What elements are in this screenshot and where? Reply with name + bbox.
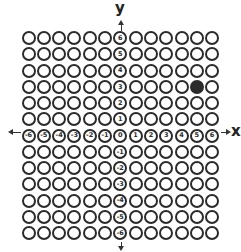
grid-point: 2: [143, 128, 158, 144]
grid-point: [67, 193, 82, 209]
ring-icon: [98, 226, 112, 240]
ring-icon: [83, 194, 97, 208]
grid-point: [174, 144, 189, 160]
grid-point: [174, 30, 189, 46]
grid-point: [98, 193, 113, 209]
grid-point: -3: [113, 176, 128, 192]
ring-icon: [205, 210, 219, 224]
grid-point: -3: [67, 128, 82, 144]
ring-icon: [175, 112, 189, 126]
grid-point: [174, 79, 189, 95]
grid-point: [143, 144, 158, 160]
grid-point: [36, 30, 51, 46]
grid-point: [52, 160, 67, 176]
ring-icon: -3: [67, 129, 81, 143]
grid-point: [21, 144, 36, 160]
grid-point: [189, 63, 204, 79]
grid-point: [21, 209, 36, 225]
ring-icon: [98, 194, 112, 208]
ring-icon: [83, 226, 97, 240]
grid-point: [67, 209, 82, 225]
ring-icon: 1: [129, 129, 143, 143]
grid-point: [52, 176, 67, 192]
x-axis-arrow-right-icon: [226, 129, 231, 135]
grid-point: [159, 176, 174, 192]
ring-icon: [190, 194, 204, 208]
tick-label: 5: [195, 132, 200, 139]
ring-icon: [205, 226, 219, 240]
ring-icon: [22, 96, 36, 110]
grid-point: [189, 30, 204, 46]
grid-point: [36, 144, 51, 160]
ring-icon: [67, 112, 81, 126]
grid-point: [67, 144, 82, 160]
grid-point: -6: [21, 128, 36, 144]
grid-point: [205, 160, 220, 176]
ring-icon: [22, 112, 36, 126]
tick-label: 5: [118, 51, 123, 58]
tick-label: -3: [71, 132, 78, 139]
grid-point: 4: [174, 128, 189, 144]
ring-icon: [83, 210, 97, 224]
grid-point: [52, 95, 67, 111]
circle-grid: 654321-6-5-4-3-2-10123456-1-2-3-4-5-6: [21, 30, 221, 242]
ring-icon: [22, 194, 36, 208]
grid-point: [205, 95, 220, 111]
y-axis-arrow-down-icon: [118, 246, 124, 251]
ring-icon: [175, 210, 189, 224]
ring-icon: [37, 194, 51, 208]
ring-icon: [190, 145, 204, 159]
ring-icon: [22, 210, 36, 224]
ring-icon: [175, 80, 189, 94]
ring-icon: [67, 31, 81, 45]
grid-point: [143, 95, 158, 111]
ring-icon: 6: [205, 129, 219, 143]
ring-icon: [83, 112, 97, 126]
grid-point: [128, 209, 143, 225]
grid-point: [128, 160, 143, 176]
ring-icon: [190, 112, 204, 126]
ring-icon: [205, 145, 219, 159]
ring-icon: 6: [113, 31, 127, 45]
grid-point: [67, 225, 82, 241]
ring-icon: [83, 80, 97, 94]
ring-icon: [159, 210, 173, 224]
grid-point: [36, 95, 51, 111]
ring-icon: [37, 31, 51, 45]
ring-icon: [159, 161, 173, 175]
grid-point: [82, 63, 97, 79]
ring-icon: [144, 112, 158, 126]
grid-point: [82, 160, 97, 176]
grid-point: [143, 193, 158, 209]
ring-icon: [52, 31, 66, 45]
grid-point: [205, 79, 220, 95]
ring-icon: [98, 145, 112, 159]
ring-icon: [52, 177, 66, 191]
grid-point: [82, 193, 97, 209]
grid-point: [52, 193, 67, 209]
ring-icon: 4: [113, 64, 127, 78]
ring-icon: -1: [113, 145, 127, 159]
ring-icon: [159, 96, 173, 110]
ring-icon: [144, 226, 158, 240]
grid-point: [143, 79, 158, 95]
grid-point: [205, 225, 220, 241]
ring-icon: [52, 112, 66, 126]
ring-icon: [190, 161, 204, 175]
ring-icon: [52, 96, 66, 110]
ring-icon: [159, 31, 173, 45]
grid-point: [159, 79, 174, 95]
grid-point: 3: [159, 128, 174, 144]
grid-point: 1: [113, 111, 128, 127]
grid-point: [189, 95, 204, 111]
ring-icon: [83, 161, 97, 175]
tick-label: -6: [117, 230, 124, 237]
grid-point: [189, 225, 204, 241]
ring-icon: 2: [113, 96, 127, 110]
ring-icon: -6: [113, 226, 127, 240]
grid-point: [143, 46, 158, 62]
grid-point: [21, 95, 36, 111]
grid-point: [36, 63, 51, 79]
ring-icon: [37, 80, 51, 94]
grid-point: [159, 63, 174, 79]
